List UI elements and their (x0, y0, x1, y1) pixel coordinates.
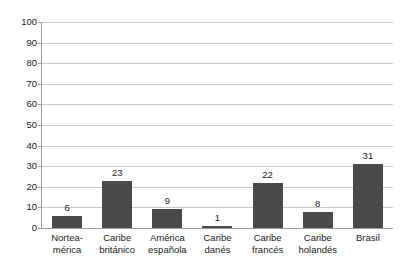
x-axis-category-label-line: América (142, 232, 192, 244)
y-axis-tick-mark (38, 228, 42, 229)
y-axis-tick-label: 30 (11, 161, 37, 171)
bar-value-label: 23 (112, 168, 123, 178)
bar-group: 8 (293, 22, 343, 228)
gridline (42, 228, 393, 229)
bar (152, 209, 182, 228)
bar-value-label: 22 (262, 170, 273, 180)
x-axis-category-label-line: española (142, 244, 192, 256)
bar (303, 212, 333, 228)
bar-group: 31 (343, 22, 393, 228)
y-axis-tick-label: 40 (11, 141, 37, 151)
y-axis-tick-label: 10 (11, 202, 37, 212)
bar-value-label: 1 (215, 213, 220, 223)
bar-value-label: 6 (64, 203, 69, 213)
x-axis-category-label-line: danés (192, 244, 242, 256)
bars-layer: 6239122831 (42, 22, 393, 228)
bar-chart: 0102030405060708090100 6239122831 Nortea… (0, 0, 409, 275)
bar-group: 9 (142, 22, 192, 228)
bar-group: 23 (92, 22, 142, 228)
x-axis-category-label: Caribefrancés (243, 232, 293, 256)
bar (253, 183, 283, 228)
x-axis-category-label: Nortea-mérica (42, 232, 92, 256)
x-axis-category-label-line: Nortea- (42, 232, 92, 244)
x-axis-category-label-line: británico (92, 244, 142, 256)
bar (52, 216, 82, 228)
y-axis-tick-label: 100 (11, 17, 37, 27)
y-axis-tick-label: 70 (11, 79, 37, 89)
bar-value-label: 31 (363, 151, 374, 161)
bar (202, 226, 232, 228)
x-axis-category-label-line: Caribe (293, 232, 343, 244)
x-axis-category-label-line: Caribe (243, 232, 293, 244)
x-axis-category-label: Caribedanés (192, 232, 242, 256)
x-axis-category-label-line: mérica (42, 244, 92, 256)
bar-value-label: 9 (165, 196, 170, 206)
x-axis-category-label: Brasil (343, 232, 393, 244)
bar-value-label: 8 (315, 199, 320, 209)
x-axis-category-label-line: holandés (293, 244, 343, 256)
bar-group: 1 (192, 22, 242, 228)
bar-group: 6 (42, 22, 92, 228)
x-axis-category-label: Américaespañola (142, 232, 192, 256)
y-axis-tick-label: 60 (11, 99, 37, 109)
x-axis-category-label-line: Caribe (192, 232, 242, 244)
bar (102, 181, 132, 228)
x-axis-category-label: Caribeholandés (293, 232, 343, 256)
x-axis-category-label-line: francés (243, 244, 293, 256)
bar-group: 22 (243, 22, 293, 228)
x-axis-category-labels: Nortea-méricaCaribebritánicoAméricaespañ… (42, 232, 393, 272)
y-axis-tick-label: 50 (11, 120, 37, 130)
y-axis-tick-label: 80 (11, 58, 37, 68)
y-axis-tick-label: 20 (11, 182, 37, 192)
y-axis-tick-label: 0 (11, 223, 37, 233)
bar (353, 164, 383, 228)
y-axis-tick-label: 90 (11, 38, 37, 48)
x-axis-category-label-line: Brasil (343, 232, 393, 244)
x-axis-category-label-line: Caribe (92, 232, 142, 244)
x-axis-category-label: Caribebritánico (92, 232, 142, 256)
